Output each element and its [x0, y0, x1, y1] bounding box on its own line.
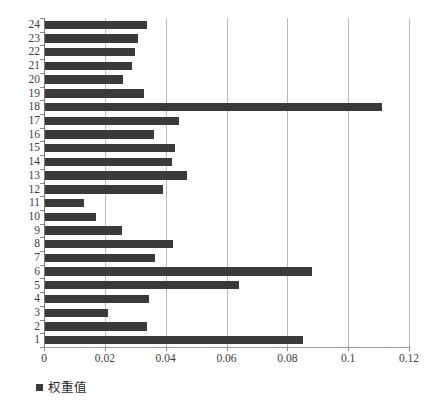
y-axis-tick-mark [40, 320, 44, 321]
gridline [227, 18, 228, 347]
legend-label: 权重值 [48, 381, 87, 394]
y-axis-tick-mark [40, 73, 44, 74]
y-axis-tick-mark [40, 100, 44, 101]
bar [44, 21, 147, 29]
y-axis-tick-mark [40, 114, 44, 115]
bar [44, 322, 147, 330]
x-axis-tick-label: 0.1 [341, 352, 355, 365]
y-axis-tick-label: 5 [10, 280, 40, 292]
bar [44, 309, 108, 317]
y-axis-tick-label: 8 [10, 238, 40, 250]
y-axis-tick-label: 12 [10, 184, 40, 196]
y-axis-tick-mark [40, 251, 44, 252]
y-axis-tick-mark [40, 141, 44, 142]
y-axis-tick-mark [40, 333, 44, 334]
x-axis-tick-label: 0.08 [277, 352, 297, 365]
y-axis-tick-mark [40, 278, 44, 279]
bar [44, 89, 144, 97]
y-axis-tick-mark [40, 224, 44, 225]
y-axis-tick-mark [40, 237, 44, 238]
gridline [348, 18, 349, 347]
y-axis-tick-mark [40, 45, 44, 46]
y-axis-tick-label: 20 [10, 74, 40, 86]
y-axis-tick-mark [40, 210, 44, 211]
x-axis-tick-mark [44, 347, 45, 351]
bar [44, 295, 149, 303]
x-axis-tick-mark [348, 347, 349, 351]
y-axis-tick-mark [40, 169, 44, 170]
bar [44, 34, 138, 42]
y-axis-tick-label: 23 [10, 33, 40, 45]
x-axis-tick-mark [105, 347, 106, 351]
y-axis-tick-mark [40, 128, 44, 129]
bar [44, 226, 122, 234]
y-axis-tick-label: 10 [10, 211, 40, 223]
y-axis-tick-mark [40, 18, 44, 19]
y-axis-tick-label: 16 [10, 129, 40, 141]
y-axis-tick-mark [40, 32, 44, 33]
bar [44, 158, 172, 166]
bar [44, 199, 84, 207]
bar [44, 281, 239, 289]
y-axis-tick-label: 4 [10, 293, 40, 305]
x-axis-tick-mark [227, 347, 228, 351]
legend-square-marker-icon [36, 384, 43, 391]
legend: 权重值 [36, 381, 87, 394]
x-axis-tick-label: 0.02 [95, 352, 115, 365]
bar [44, 130, 154, 138]
x-axis-tick-mark [287, 347, 288, 351]
y-axis-tick-label: 15 [10, 142, 40, 154]
gridline [166, 18, 167, 347]
plot-area [44, 18, 409, 347]
x-axis-labels: 00.020.040.060.080.10.12 [0, 352, 439, 370]
bar-chart: 123456789101112131415161718192021222324 … [0, 0, 439, 412]
y-axis-tick-label: 14 [10, 156, 40, 168]
gridline [409, 18, 410, 347]
y-axis-tick-label: 19 [10, 88, 40, 100]
y-axis-tick-label: 18 [10, 101, 40, 113]
y-axis-tick-label: 1 [10, 334, 40, 346]
y-axis-tick-mark [40, 87, 44, 88]
y-axis-tick-label: 6 [10, 266, 40, 278]
x-axis-tick-mark [409, 347, 410, 351]
bar [44, 267, 312, 275]
x-axis-tick-mark [166, 347, 167, 351]
bar [44, 117, 179, 125]
y-axis-tick-mark [40, 196, 44, 197]
y-axis-line [44, 18, 45, 348]
y-axis-tick-label: 3 [10, 307, 40, 319]
bar [44, 62, 132, 70]
y-axis-tick-label: 13 [10, 170, 40, 182]
y-axis-labels: 123456789101112131415161718192021222324 [4, 18, 40, 347]
y-axis-tick-label: 21 [10, 60, 40, 72]
x-axis-tick-label: 0 [41, 352, 47, 365]
y-axis-tick-label: 9 [10, 225, 40, 237]
y-axis-tick-label: 22 [10, 46, 40, 58]
bar [44, 48, 135, 56]
x-axis-tick-label: 0.04 [156, 352, 176, 365]
bar [44, 103, 382, 111]
y-axis-tick-label: 11 [10, 197, 40, 209]
x-axis-tick-label: 0.06 [216, 352, 236, 365]
y-axis-tick-mark [40, 265, 44, 266]
y-axis-tick-label: 17 [10, 115, 40, 127]
y-axis-tick-mark [40, 59, 44, 60]
y-axis-tick-label: 24 [10, 19, 40, 31]
bar [44, 171, 187, 179]
x-axis-tick-label: 0.12 [399, 352, 419, 365]
y-axis-tick-label: 7 [10, 252, 40, 264]
bar [44, 185, 163, 193]
bar [44, 336, 303, 344]
bar [44, 75, 123, 83]
bar [44, 254, 155, 262]
y-axis-tick-mark [40, 306, 44, 307]
bar [44, 240, 173, 248]
y-axis-tick-mark [40, 292, 44, 293]
y-axis-tick-mark [40, 183, 44, 184]
y-axis-tick-mark [40, 155, 44, 156]
gridline [287, 18, 288, 347]
bar [44, 144, 175, 152]
y-axis-tick-label: 2 [10, 321, 40, 333]
bar [44, 213, 96, 221]
